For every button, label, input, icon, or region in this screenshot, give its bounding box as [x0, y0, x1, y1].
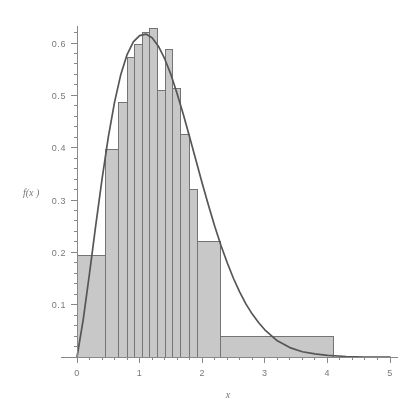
y-axis-title: f(x ) [23, 187, 40, 199]
y-axis-tick-label: 0.1 [52, 300, 66, 310]
histogram-bar [127, 57, 135, 357]
histogram-bar [197, 242, 221, 357]
y-axis-tick-label: 0.5 [52, 91, 66, 101]
histogram-bar [150, 28, 158, 357]
histogram-bar [181, 135, 190, 357]
histogram-bar [105, 149, 119, 357]
x-axis-tick-label: 1 [137, 368, 143, 378]
y-axis-tick-label: 0.4 [52, 143, 66, 153]
histogram-bar [119, 102, 127, 357]
histogram-bar [135, 45, 143, 357]
x-axis-tick-label: 2 [199, 368, 205, 378]
histogram-density-chart: 0123450.10.20.30.40.50.6 f(x ) x [0, 0, 407, 411]
plot-area: 0123450.10.20.30.40.50.6 f(x ) x [0, 0, 407, 411]
x-axis-tick-label: 5 [387, 368, 393, 378]
histogram-bar [158, 90, 166, 357]
histogram-bar [142, 33, 150, 357]
x-axis-title: x [225, 389, 231, 400]
y-axis-tick-label: 0.2 [52, 248, 66, 258]
y-axis-tick-label: 0.3 [52, 196, 66, 206]
x-axis-tick-label: 0 [74, 368, 80, 378]
histogram-bar [190, 190, 198, 357]
histogram-bar [77, 256, 105, 357]
histogram-bar [165, 50, 173, 357]
histogram-bar [173, 89, 181, 357]
x-axis-tick-label: 3 [262, 368, 268, 378]
x-axis-tick-label: 4 [325, 368, 331, 378]
y-axis-tick-label: 0.6 [52, 39, 66, 49]
